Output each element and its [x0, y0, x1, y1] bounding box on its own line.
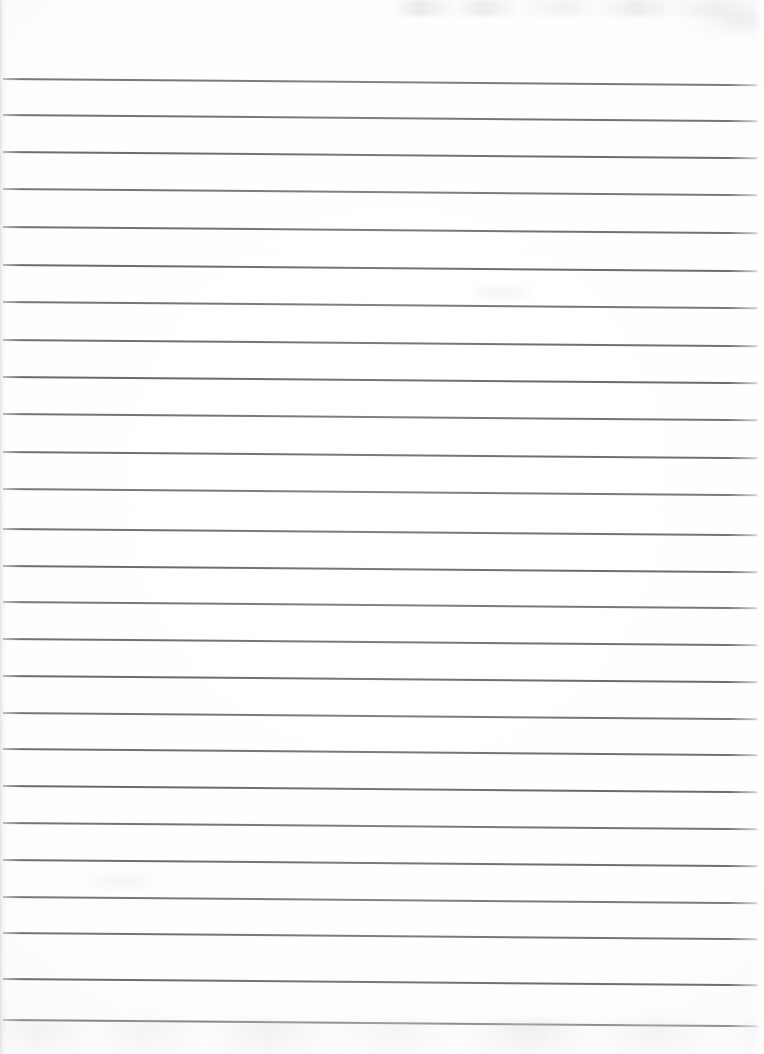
ruled-line [3, 413, 758, 421]
ruled-line [3, 859, 758, 867]
ruled-line [3, 748, 758, 756]
ruled-line [3, 226, 758, 234]
page-edge-shadow-left [0, 0, 9, 1054]
ruled-line [3, 932, 758, 940]
notebook-page [0, 0, 764, 1054]
ruled-line [3, 528, 758, 536]
ruled-lines-layer [0, 0, 764, 1054]
ruled-line [3, 712, 758, 720]
ruled-line [3, 822, 758, 830]
page-edge-highlight-right [754, 0, 764, 1054]
ruled-line [3, 638, 758, 646]
ruled-line [3, 785, 758, 793]
ruled-line [3, 451, 758, 459]
ruled-line [3, 78, 758, 86]
ruled-line [3, 675, 758, 683]
ruled-line [3, 264, 758, 272]
ruled-line [3, 978, 758, 986]
ruled-line [3, 896, 758, 904]
ruled-line [3, 188, 758, 196]
ruled-line [3, 565, 758, 573]
ruled-line [3, 601, 758, 609]
ruled-line [3, 301, 758, 309]
ruled-line [3, 339, 758, 347]
ruled-line [3, 488, 758, 496]
ruled-line [3, 1019, 758, 1027]
ruled-line [3, 376, 758, 384]
ruled-line [3, 114, 758, 122]
ruled-line [3, 151, 758, 159]
